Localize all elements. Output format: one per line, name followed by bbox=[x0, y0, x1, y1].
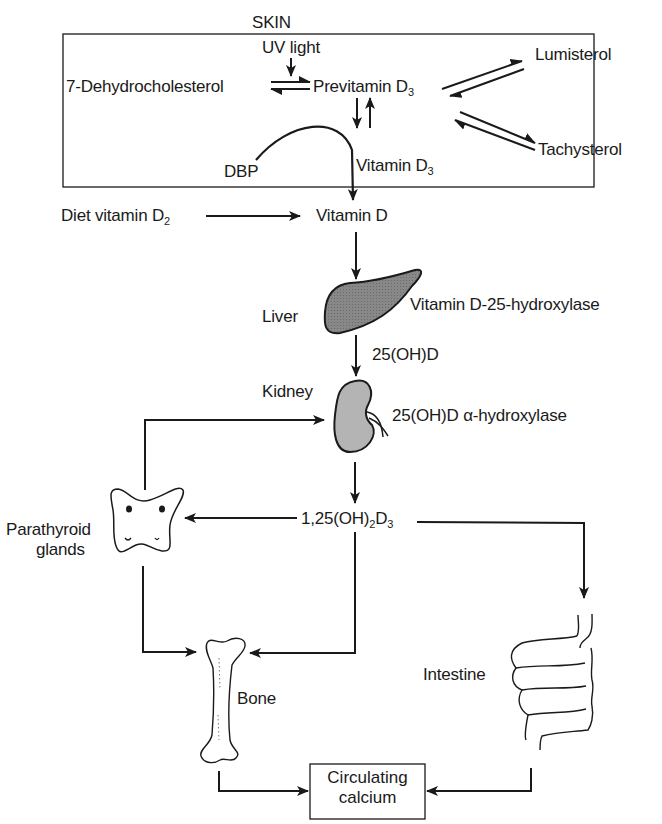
bone-label: Bone bbox=[237, 690, 276, 707]
intestine-label: Intestine bbox=[423, 666, 485, 683]
lumisterol-label: Lumisterol bbox=[535, 46, 611, 63]
kidney-label: Kidney bbox=[262, 383, 313, 400]
parathyroid-label-line1: Parathyroid bbox=[6, 521, 91, 538]
vitamin-d-label: Vitamin D bbox=[316, 207, 388, 224]
diet-vitamin-d2-label: Diet vitamin D2 bbox=[61, 207, 170, 227]
intestine-shape bbox=[511, 614, 593, 750]
dehydrocholesterol-label: 7-Dehydrocholesterol bbox=[66, 78, 224, 95]
tachysterol-label: Tachysterol bbox=[538, 141, 622, 158]
parathyroid-label-line2: glands bbox=[36, 541, 85, 558]
calcitriol-label: 1,25(OH)2D3 bbox=[301, 510, 393, 530]
circulating-line2: calcium bbox=[310, 788, 425, 808]
skin-title: SKIN bbox=[252, 14, 291, 31]
kidney-shape bbox=[334, 381, 373, 452]
liver-enzyme-label: Vitamin D-25-hydroxylase bbox=[410, 296, 600, 313]
previtamin-d3-label: Previtamin D3 bbox=[313, 78, 414, 98]
liver-shape bbox=[325, 270, 421, 334]
circulating-line1: Circulating bbox=[310, 768, 425, 788]
vitamin-d3-label: Vitamin D3 bbox=[356, 157, 434, 177]
circulating-calcium-label: Circulating calcium bbox=[310, 768, 425, 808]
uv-light-label: UV light bbox=[262, 39, 320, 56]
dbp-label: DBP bbox=[224, 163, 258, 180]
dbp-curve bbox=[256, 127, 353, 200]
25ohd-label: 25(OH)D bbox=[372, 346, 439, 363]
liver-label: Liver bbox=[262, 308, 298, 325]
kidney-enzyme-label: 25(OH)D α-hydroxylase bbox=[392, 407, 567, 424]
skin-box bbox=[63, 34, 594, 187]
parathyroid-shape bbox=[111, 488, 183, 551]
